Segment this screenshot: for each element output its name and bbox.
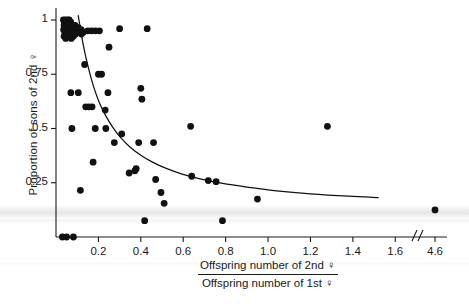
data-point (324, 123, 331, 130)
data-point (161, 200, 168, 207)
x-axis-label-numerator: Offspring number of 2nd ♀ (198, 258, 338, 275)
data-point (150, 139, 157, 146)
data-point (152, 176, 159, 183)
x-axis-tick-label: 1.4 (333, 245, 373, 257)
y-axis-tick-label: 1 (2, 12, 48, 24)
data-point (158, 189, 165, 196)
data-point (78, 31, 85, 38)
data-point (141, 217, 148, 224)
data-point (106, 44, 113, 51)
data-point (135, 139, 142, 146)
data-point-group (59, 17, 438, 241)
x-axis-tick-label: 1.6 (375, 245, 415, 257)
data-point (144, 25, 151, 32)
data-point (70, 234, 77, 241)
data-point (81, 61, 88, 68)
y-axis-tick-label: 0.75 (2, 66, 48, 78)
y-axis-tick-label: 0.5 (2, 121, 48, 133)
axis-break-marker (412, 230, 423, 241)
data-point (90, 159, 97, 166)
x-axis-tick-label: 1.0 (248, 245, 288, 257)
x-axis-tick-label: 1.2 (290, 245, 330, 257)
data-point (432, 206, 439, 213)
x-axis-label-denominator: Offspring number of 1st ♀ (198, 275, 338, 291)
data-point (254, 196, 261, 203)
x-axis-tick-label: 0.8 (206, 245, 246, 257)
data-point (67, 89, 74, 96)
x-axis-tick-label: 4.6 (415, 245, 455, 257)
x-axis-tick-label: 0.6 (163, 245, 203, 257)
fitted-regression-curve (78, 16, 378, 198)
scatter-plot-figure: Proportion of sons of 2nd ♀ Offspring nu… (0, 0, 469, 304)
data-point (118, 131, 125, 138)
data-point (102, 125, 109, 132)
data-point (68, 35, 75, 42)
data-point (205, 177, 212, 184)
data-point (116, 25, 123, 32)
data-point (137, 85, 144, 92)
data-point (102, 107, 109, 114)
data-point (92, 125, 99, 132)
data-point (89, 103, 96, 110)
x-axis-label: Offspring number of 2nd ♀ Offspring numb… (198, 258, 338, 291)
data-point (213, 178, 220, 185)
data-point (63, 234, 70, 241)
y-axis-tick-label: 0.25 (2, 175, 48, 187)
data-point (133, 165, 140, 172)
data-point (105, 89, 112, 96)
x-axis-tick-label: 0.4 (121, 245, 161, 257)
data-point (187, 123, 194, 130)
data-point (111, 139, 118, 146)
data-point (188, 173, 195, 180)
x-axis-tick-label: 0.2 (78, 245, 118, 257)
data-point (77, 187, 84, 194)
data-point (98, 71, 105, 78)
data-point (69, 125, 76, 132)
data-point (138, 96, 145, 103)
data-point (219, 217, 226, 224)
data-point (96, 27, 103, 34)
data-point (75, 89, 82, 96)
